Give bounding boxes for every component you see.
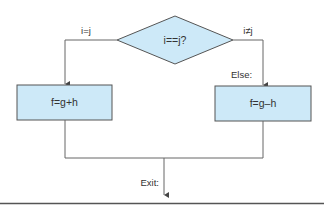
decision-node: i==j? xyxy=(117,16,233,64)
else-block: f=g–h xyxy=(215,86,311,121)
merge-connector xyxy=(65,120,263,195)
decision-label: i==j? xyxy=(164,34,187,46)
then-block: f=g+h xyxy=(17,85,112,120)
true-branch-label: i=j xyxy=(81,25,91,36)
flowchart: i=j i≠j i==j? Else: f=g+h f=g–h Exit: xyxy=(0,0,324,206)
false-branch-label: i≠j xyxy=(243,25,252,36)
exit-label: Exit: xyxy=(141,177,159,188)
true-branch-connector xyxy=(65,40,117,84)
then-block-label: f=g+h xyxy=(51,96,78,108)
else-block-label: f=g–h xyxy=(250,97,277,109)
else-label: Else: xyxy=(231,69,252,80)
